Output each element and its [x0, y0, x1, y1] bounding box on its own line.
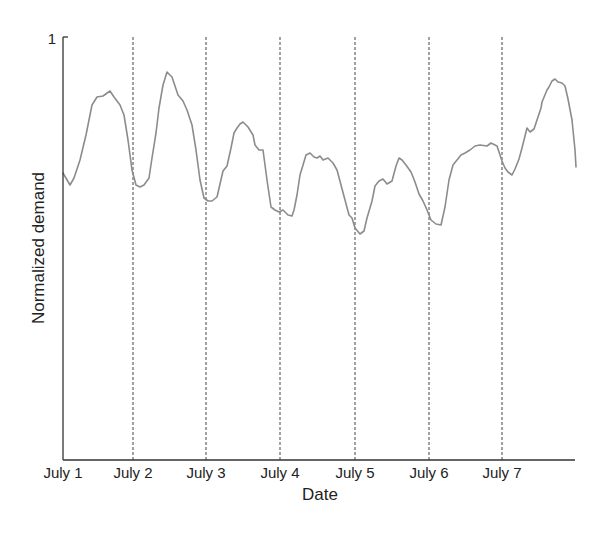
- x-tick-label: July 1: [43, 464, 82, 481]
- demand-line-chart: 1 July 1July 2July 3July 4July 5July 6Ju…: [0, 0, 607, 536]
- y-tick-label-1: 1: [48, 30, 56, 47]
- x-tick-label: July 7: [482, 464, 521, 481]
- x-tick-label: July 6: [409, 464, 448, 481]
- demand-series-line: [63, 72, 576, 234]
- day-gridlines: [133, 37, 502, 460]
- x-tick-labels: July 1July 2July 3July 4July 5July 6July…: [43, 464, 521, 481]
- x-tick-label: July 3: [186, 464, 225, 481]
- x-axis-title: Date: [302, 485, 338, 504]
- x-tick-label: July 2: [113, 464, 152, 481]
- x-tick-label: July 5: [335, 464, 374, 481]
- x-tick-label: July 4: [260, 464, 299, 481]
- y-axis-title: Normalized demand: [29, 172, 48, 324]
